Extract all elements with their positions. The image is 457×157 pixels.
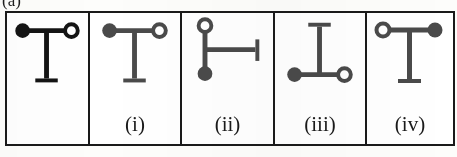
endpoint-filled-circle-left [102, 23, 117, 38]
option-label-iv: (iv) [367, 114, 453, 135]
shape-tee-down-black [7, 13, 88, 101]
shape-tee-right-gray [182, 13, 273, 101]
endpoint-filled-circle-right [428, 23, 443, 38]
figure-caption: (a) [2, 0, 21, 11]
option-panel-reference[interactable] [7, 13, 90, 144]
endpoint-filled-circle-left [15, 23, 30, 38]
option-panel-i[interactable]: (i) [90, 13, 182, 144]
options-strip: (i) (ii) [5, 11, 455, 146]
option-panel-iv[interactable]: (iv) [367, 13, 453, 144]
endpoint-open-circle-right [338, 68, 351, 81]
endpoint-open-circle-left [377, 24, 390, 37]
shape-tee-down-mirrored-gray [367, 13, 453, 101]
endpoint-filled-circle-bottom [198, 66, 213, 81]
endpoint-open-circle-top [199, 19, 212, 32]
endpoint-open-circle-right [65, 24, 78, 37]
option-label-iii: (iii) [275, 114, 365, 135]
shape-tee-up-gray [275, 13, 365, 101]
endpoint-filled-circle-left [287, 67, 302, 82]
shape-tee-down-gray [90, 13, 180, 101]
option-label-ii: (ii) [182, 114, 273, 135]
option-label-i: (i) [90, 114, 180, 135]
endpoint-open-circle-right [153, 24, 166, 37]
option-panel-ii[interactable]: (ii) [182, 13, 275, 144]
option-panel-iii[interactable]: (iii) [275, 13, 367, 144]
